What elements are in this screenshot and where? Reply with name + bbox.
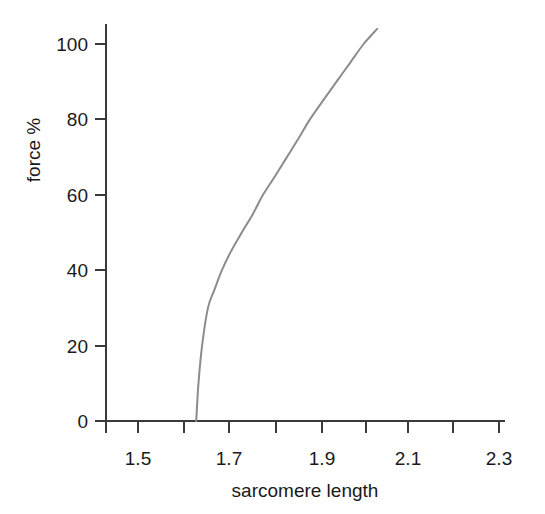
y-tick-label-80: 80 bbox=[67, 109, 88, 130]
y-tick-label-60: 60 bbox=[67, 185, 88, 206]
x-axis-title: sarcomere length bbox=[232, 480, 379, 501]
force-curve bbox=[196, 29, 377, 421]
y-tick-label-20: 20 bbox=[67, 336, 88, 357]
x-tick-label-2-3: 2.3 bbox=[486, 448, 512, 469]
x-tick-label-1-5: 1.5 bbox=[125, 448, 151, 469]
sarcomere-force-plot: 0 20 40 60 80 100 1.5 1.7 1.9 2.1 2.3 bbox=[0, 0, 545, 514]
y-tick-label-0: 0 bbox=[77, 411, 88, 432]
y-tick-label-40: 40 bbox=[67, 260, 88, 281]
y-axis-title: force % bbox=[23, 118, 44, 183]
y-tick-labels: 0 20 40 60 80 100 bbox=[56, 34, 88, 432]
x-tick-labels: 1.5 1.7 1.9 2.1 2.3 bbox=[125, 448, 512, 469]
chart-figure: 0 20 40 60 80 100 1.5 1.7 1.9 2.1 2.3 bbox=[0, 0, 545, 514]
x-tick-label-1-7: 1.7 bbox=[216, 448, 242, 469]
x-tick-label-2-1: 2.1 bbox=[395, 448, 421, 469]
x-tick-label-1-9: 1.9 bbox=[309, 448, 335, 469]
y-tick-label-100: 100 bbox=[56, 34, 88, 55]
y-tick-marks bbox=[95, 44, 106, 421]
